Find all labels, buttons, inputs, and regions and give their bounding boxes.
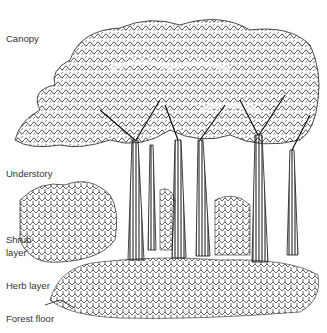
label-shrub-layer: Shrub layer <box>6 233 31 259</box>
label-canopy: Canopy <box>6 32 39 45</box>
label-forest-floor: Forest floor <box>6 312 54 325</box>
forest-layers-diagram: Canopy Understory Shrub layer Herb layer… <box>0 0 327 333</box>
tree-trunks <box>128 135 298 262</box>
herb-layer-foliage <box>45 258 319 318</box>
canopy-foliage <box>15 20 319 147</box>
label-herb-layer: Herb layer <box>6 279 50 292</box>
label-understory: Understory <box>6 167 52 180</box>
